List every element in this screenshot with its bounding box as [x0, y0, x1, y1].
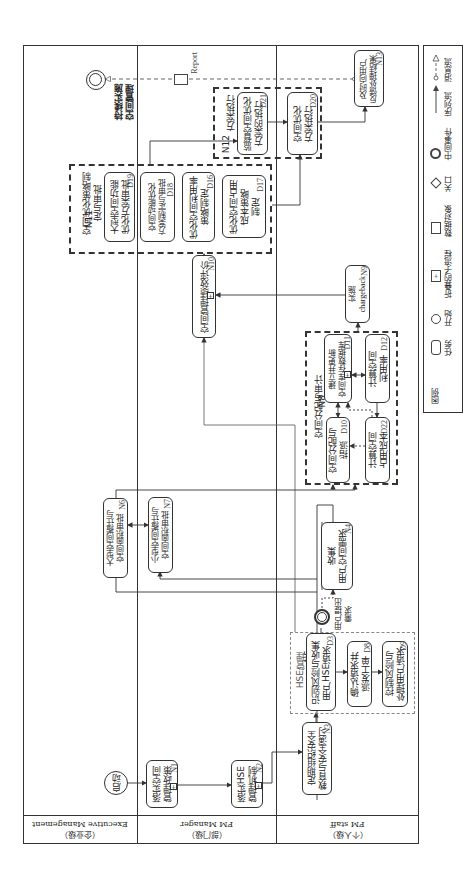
- task-n4-id: N4: [344, 524, 353, 534]
- task-d8-id: D8: [363, 643, 372, 653]
- collapsed-subprocess-icon: +: [344, 371, 351, 378]
- group-n12-id: N12: [221, 135, 231, 153]
- task-d12-label: 计算空间 利用率: [367, 351, 389, 387]
- task-d11-id: D11: [343, 336, 352, 349]
- task-n6-label: 大型空间搬迁与 空间面积审批: [106, 510, 126, 566]
- lane-header-fm-manager: （部门级） FM Manager: [137, 815, 276, 844]
- group-n5-title: HSE管理: [295, 652, 306, 688]
- end-event[interactable]: [86, 70, 106, 90]
- lane-label-cn: （个人级）: [328, 830, 368, 840]
- data-object-report-label: Report: [190, 52, 199, 74]
- task-n6-id: N6: [118, 500, 127, 510]
- lane-divider-2: [276, 45, 277, 844]
- task-n9-label: 实施 chargeback: [348, 276, 368, 312]
- legend-title: 图例: [430, 388, 441, 404]
- task-n2-id: N2: [255, 763, 264, 773]
- user-request-label: 用户提出 需求: [334, 598, 354, 630]
- legend-start-icon: [431, 314, 441, 324]
- group-n8-title: 空间分配与审计: [313, 375, 324, 438]
- data-object-report[interactable]: [174, 74, 188, 85]
- lane-header-executive: （企业级） Executive Management: [23, 815, 137, 844]
- task-n7-id: N7: [163, 499, 172, 509]
- collapsed-subprocess-icon: +: [255, 782, 262, 789]
- task-d3-label: 识别风险与收集 用户HSE请求: [310, 641, 332, 704]
- task-d22-label: 计算空间 占用成本: [367, 432, 389, 468]
- legend-collapsed-subprocess-label: 折叠的子流程: [443, 250, 454, 298]
- lane-label-cn: （企业级）: [60, 830, 100, 840]
- task-d10-label: 空间分配与 指派: [327, 428, 349, 473]
- task-n13-id: N13: [375, 52, 384, 66]
- start-event-label: 启动: [111, 774, 122, 792]
- task-n4-label: 收集 用户空间需求: [326, 529, 348, 583]
- legend-collapsed-subprocess-icon: +: [431, 270, 441, 282]
- legend-message-flow-label: 消息流: [443, 58, 454, 82]
- intermediate-event-user-request[interactable]: [314, 609, 330, 625]
- legend-intermediate-event-label: 中间事件: [443, 128, 454, 160]
- task-d10-id: D10: [340, 420, 349, 434]
- task-n7-label: 小型空间搬迁与 空间面积审批: [151, 507, 171, 563]
- task-n10-id: N10: [207, 257, 216, 271]
- task-d18-label: 空间动能优化 方案制定与审批: [148, 179, 168, 235]
- task-d18-id: D18: [166, 183, 175, 197]
- legend-task-icon: [431, 340, 441, 355]
- end-event-inner-ring: [89, 73, 102, 86]
- lane-label-en: FM Manager: [180, 820, 233, 830]
- task-d8-label: 确认请求并 派发工单: [349, 652, 371, 697]
- legend-intermediate-event-icon: [430, 148, 441, 159]
- task-d12-id: D12: [380, 337, 389, 351]
- legend-data-object-icon: [431, 222, 441, 234]
- intermediate-event-inner-ring: [317, 612, 327, 622]
- task-n3-label: 定期组织安全 教育与安全演习: [306, 727, 328, 790]
- legend-message-flow-icon: [432, 55, 440, 81]
- collapsed-subprocess-icon: +: [207, 292, 214, 299]
- collapsed-subprocess-icon: +: [170, 783, 177, 790]
- legend-start-label: 开始: [443, 310, 454, 326]
- task-d9[interactable]: 控制风险与 处理用户请求: [382, 641, 408, 707]
- legend-gateway-label: 关口: [443, 176, 454, 192]
- end-event-label: 持续实施 空间管理: [113, 84, 135, 120]
- group-n11-title: 空间优化策略制 定与审批: [81, 172, 103, 235]
- task-d19-id: D19: [126, 174, 135, 188]
- task-d9-label: 控制风险与 处理用户请求: [384, 647, 406, 701]
- legend-task-label: 任务: [443, 340, 454, 356]
- task-d20-id: D20: [309, 94, 318, 108]
- group-n12-title: 方案执行: [225, 95, 236, 131]
- lane-label-en: FM staff: [330, 820, 364, 830]
- group-n12-label: N12: [210, 135, 232, 153]
- task-n9-id: N9: [360, 266, 369, 276]
- task-n6[interactable]: 大型空间搬迁与 空间面积审批: [103, 498, 128, 578]
- task-d17-id: D17: [256, 178, 265, 192]
- task-d22-id: D22: [380, 420, 389, 434]
- start-event[interactable]: 启动: [104, 771, 128, 795]
- task-d3-id: D3: [326, 636, 335, 646]
- legend-data-object-label: 数据对象: [443, 205, 454, 237]
- task-n3-id: N3: [323, 724, 332, 734]
- task-d16-id: D16: [206, 175, 215, 189]
- task-d21-id: D21: [259, 94, 268, 108]
- task-d19-label: 大型空间功能 优化方案审批: [109, 180, 131, 234]
- task-d20-label: 空间优化 方案执行: [292, 106, 314, 142]
- lane-label-cn: （部门级）: [187, 830, 227, 840]
- legend-sequence-flow-label: 序列流: [443, 92, 454, 116]
- task-d9-id: D9: [399, 641, 408, 651]
- task-n1-id: N1: [170, 763, 179, 773]
- legend-sequence-flow-icon: [432, 85, 440, 113]
- lane-label-en: Executive Management: [32, 820, 128, 830]
- lane-header-fm-staff: （个人级） FM staff: [276, 815, 419, 844]
